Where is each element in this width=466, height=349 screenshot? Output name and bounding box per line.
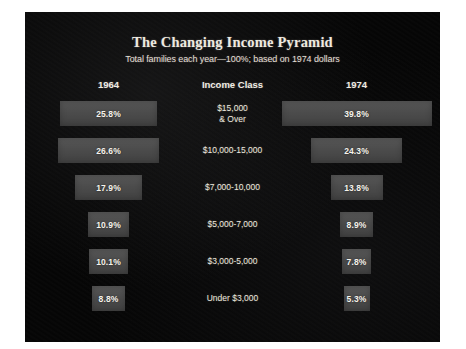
bar-cell-1974: 24.3% — [279, 138, 434, 163]
bar-value-1964: 17.9% — [96, 183, 121, 193]
bar-1974: 39.8% — [282, 101, 432, 126]
column-header-1974: 1974 — [279, 79, 434, 90]
bar-cell-1964: 10.9% — [31, 212, 186, 237]
table-row: 25.8%$15,000& Over39.8% — [31, 100, 434, 127]
income-class-line-1: $7,000-10,000 — [186, 182, 279, 193]
title-block: The Changing Income Pyramid Total famili… — [25, 12, 440, 64]
bar-1964: 10.1% — [89, 249, 127, 274]
bar-cell-1964: 17.9% — [31, 175, 186, 200]
income-class-label: $3,000-5,000 — [186, 256, 279, 267]
bar-value-1974: 39.8% — [344, 109, 369, 119]
bar-value-1974: 13.8% — [344, 183, 369, 193]
column-header-1964: 1964 — [31, 79, 186, 90]
bar-1974: 13.8% — [331, 175, 383, 200]
column-header-income-class: Income Class — [186, 79, 279, 90]
bar-1974: 5.3% — [344, 286, 370, 311]
column-headers: 1964 Income Class 1974 — [25, 79, 440, 90]
bar-1964: 8.8% — [92, 286, 125, 311]
income-class-label: Under $3,000 — [186, 293, 279, 304]
pyramid-rows: 25.8%$15,000& Over39.8%26.6%$10,000-15,0… — [25, 100, 440, 312]
income-class-line-1: $10,000-15,000 — [186, 145, 279, 156]
bar-value-1964: 25.8% — [96, 109, 121, 119]
bar-value-1974: 5.3% — [347, 294, 367, 304]
bar-cell-1964: 26.6% — [31, 138, 186, 163]
table-row: 26.6%$10,000-15,00024.3% — [31, 137, 434, 164]
table-row: 8.8%Under $3,0005.3% — [31, 285, 434, 312]
table-row: 17.9%$7,000-10,00013.8% — [31, 174, 434, 201]
slide-frame: The Changing Income Pyramid Total famili… — [25, 12, 440, 342]
bar-1964: 17.9% — [75, 175, 142, 200]
bar-cell-1974: 5.3% — [279, 286, 434, 311]
bar-value-1964: 26.6% — [96, 146, 121, 156]
income-class-label: $15,000& Over — [186, 103, 279, 124]
bar-cell-1964: 10.1% — [31, 249, 186, 274]
bar-value-1964: 10.9% — [96, 220, 121, 230]
income-class-line-1: $5,000-7,000 — [186, 219, 279, 230]
income-class-line-2: & Over — [186, 114, 279, 125]
chart-subtitle: Total families each year—100%; based on … — [25, 54, 440, 64]
bar-cell-1974: 7.8% — [279, 249, 434, 274]
bar-cell-1964: 25.8% — [31, 101, 186, 126]
income-class-label: $10,000-15,000 — [186, 145, 279, 156]
bar-cell-1974: 13.8% — [279, 175, 434, 200]
table-row: 10.9%$5,000-7,0008.9% — [31, 211, 434, 238]
bar-1974: 24.3% — [311, 138, 403, 163]
income-pyramid-chart: The Changing Income Pyramid Total famili… — [25, 12, 440, 342]
bar-value-1974: 7.8% — [347, 257, 367, 267]
bar-1964: 25.8% — [60, 101, 157, 126]
bar-1974: 7.8% — [342, 249, 371, 274]
income-class-label: $5,000-7,000 — [186, 219, 279, 230]
bar-1964: 10.9% — [88, 212, 129, 237]
income-class-line-1: Under $3,000 — [186, 293, 279, 304]
income-class-line-1: $15,000 — [186, 103, 279, 114]
income-class-line-1: $3,000-5,000 — [186, 256, 279, 267]
bar-cell-1974: 39.8% — [279, 101, 434, 126]
page-title: The Changing Income Pyramid — [25, 34, 440, 51]
bar-value-1974: 8.9% — [347, 220, 367, 230]
bar-1964: 26.6% — [58, 138, 158, 163]
income-class-label: $7,000-10,000 — [186, 182, 279, 193]
bar-value-1964: 8.8% — [99, 294, 119, 304]
bar-1974: 8.9% — [340, 212, 374, 237]
bar-cell-1974: 8.9% — [279, 212, 434, 237]
table-row: 10.1%$3,000-5,0007.8% — [31, 248, 434, 275]
bar-value-1974: 24.3% — [344, 146, 369, 156]
bar-value-1964: 10.1% — [96, 257, 121, 267]
bar-cell-1964: 8.8% — [31, 286, 186, 311]
